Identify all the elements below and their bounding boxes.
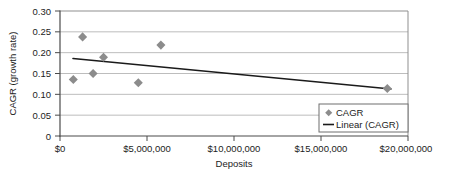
x-axis-title: Deposits bbox=[216, 158, 253, 169]
legend-label-cagr[interactable]: CAGR bbox=[336, 107, 364, 118]
y-tick-label-0.05: 0.05 bbox=[33, 110, 52, 121]
y-axis-title: CAGR (growth rate) bbox=[7, 32, 18, 116]
y-axis-ticks bbox=[55, 11, 60, 136]
y-tick-label-0.20: 0.20 bbox=[33, 47, 52, 58]
x-tick-label-0: $0 bbox=[55, 143, 66, 154]
y-tick-label-0: 0 bbox=[46, 131, 51, 142]
y-tick-label-0.15: 0.15 bbox=[33, 68, 52, 79]
y-tick-label-0.25: 0.25 bbox=[33, 26, 52, 37]
x-tick-label-15m: $15,000,000 bbox=[295, 143, 348, 154]
legend-label-linear-cagr[interactable]: Linear (CAGR) bbox=[336, 119, 399, 130]
x-tick-label-20m: $20,000,000 bbox=[380, 143, 433, 154]
y-tick-label-0.30: 0.30 bbox=[33, 6, 52, 17]
x-tick-label-5m: $5,000,000 bbox=[123, 143, 171, 154]
y-tick-label-0.10: 0.10 bbox=[33, 89, 52, 100]
chart-legend[interactable]: CAGR Linear (CAGR) bbox=[319, 104, 408, 132]
x-axis-ticks bbox=[60, 136, 408, 141]
scatter-chart: 0.30 0.25 0.20 0.15 0.10 0.05 0 $0 $5,00… bbox=[0, 0, 449, 173]
chart-canvas: 0.30 0.25 0.20 0.15 0.10 0.05 0 $0 $5,00… bbox=[0, 0, 449, 173]
x-tick-label-10m: $10,000,000 bbox=[208, 143, 261, 154]
